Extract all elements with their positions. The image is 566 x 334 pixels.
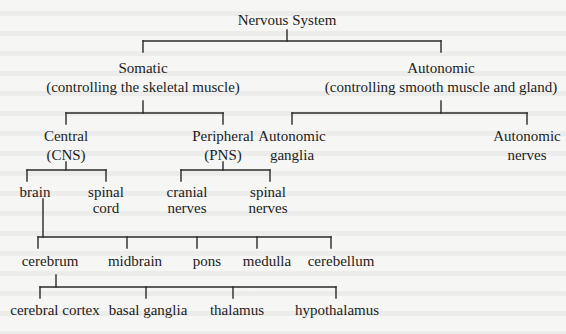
node-spinal-nerves: spinal nerves (248, 184, 287, 216)
node-sublabel: (PNS) (192, 147, 254, 163)
node-autonomic: Autonomic (controlling smooth muscle and… (325, 60, 557, 95)
node-cranial-nerves: cranial nerves (167, 184, 208, 216)
node-hypothalamus: hypothalamus (295, 302, 379, 318)
node-sublabel: nerves (167, 200, 208, 216)
tree-connectors (0, 0, 566, 334)
node-label: basal ganglia (109, 302, 188, 318)
node-label: hypothalamus (295, 302, 379, 318)
node-autonomic-ganglia: Autonomic ganglia (258, 128, 326, 163)
node-label: spinal (88, 184, 124, 200)
node-label: spinal (248, 184, 287, 200)
node-sublabel: (CNS) (44, 147, 88, 163)
node-label: cerebral cortex (10, 302, 100, 318)
node-label: Central (44, 128, 88, 144)
node-label: midbrain (108, 253, 162, 269)
node-label: cerebrum (22, 253, 79, 269)
node-midbrain: midbrain (108, 253, 162, 269)
node-autonomic-nerves: Autonomic nerves (493, 128, 561, 163)
node-nervous-system: Nervous System (238, 12, 337, 28)
node-label: thalamus (210, 302, 264, 318)
node-sublabel: nerves (248, 200, 287, 216)
node-label: Somatic (46, 60, 240, 76)
node-sublabel: nerves (493, 147, 561, 163)
node-sublabel: (controlling smooth muscle and gland) (325, 79, 557, 95)
node-sublabel: ganglia (258, 147, 326, 163)
node-cerebrum: cerebrum (22, 253, 79, 269)
node-cerebellum: cerebellum (308, 253, 375, 269)
node-label: medulla (243, 253, 291, 269)
node-brain: brain (20, 184, 51, 200)
node-label: cranial (167, 184, 208, 200)
node-label: Autonomic (493, 128, 561, 144)
node-thalamus: thalamus (210, 302, 264, 318)
node-label: pons (193, 253, 221, 269)
node-label: Autonomic (325, 60, 557, 76)
node-label: cerebellum (308, 253, 375, 269)
node-medulla: medulla (243, 253, 291, 269)
node-somatic: Somatic (controlling the skeletal muscle… (46, 60, 240, 95)
node-label: Autonomic (258, 128, 326, 144)
node-label: Nervous System (238, 12, 337, 28)
node-central-cns: Central (CNS) (44, 128, 88, 163)
node-label: brain (20, 184, 51, 200)
node-basal-ganglia: basal ganglia (109, 302, 188, 318)
node-spinal-cord: spinal cord (88, 184, 124, 216)
node-sublabel: cord (88, 200, 124, 216)
node-sublabel: (controlling the skeletal muscle) (46, 79, 240, 95)
node-cerebral-cortex: cerebral cortex (10, 302, 100, 318)
node-peripheral-pns: Peripheral (PNS) (192, 128, 254, 163)
node-label: Peripheral (192, 128, 254, 144)
node-pons: pons (193, 253, 221, 269)
